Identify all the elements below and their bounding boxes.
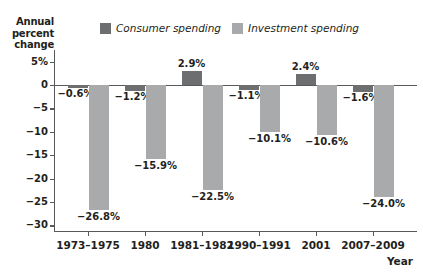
- x-tick-label: 1973–1975: [56, 239, 120, 251]
- legend-swatch-investment-icon: [232, 23, 243, 34]
- legend-item-consumer-spending: Consumer spending: [100, 22, 221, 34]
- y-tick: [50, 202, 55, 203]
- y-tick-label: −25: [2, 196, 48, 207]
- bar-value-label: −10.1%: [248, 133, 291, 144]
- x-tick-label: 1980: [130, 239, 159, 251]
- legend-label-investment: Investment spending: [248, 22, 359, 34]
- x-tick: [88, 231, 89, 236]
- x-axis-title: Year: [387, 255, 413, 267]
- x-tick-label: 2007–2009: [341, 239, 405, 251]
- bar-investment: [374, 85, 394, 197]
- y-tick-label: −10: [2, 125, 48, 136]
- x-tick-label: 1981–1982: [170, 239, 234, 251]
- bar-investment: [203, 85, 223, 190]
- bar-consumer: [182, 71, 202, 85]
- bar-chart: Annual percent change Consumer spending …: [0, 0, 423, 275]
- y-tick: [50, 85, 55, 86]
- bar-value-label: 2.4%: [292, 61, 320, 72]
- x-tick-label: 1990–1991: [227, 239, 291, 251]
- x-tick: [373, 231, 374, 236]
- bar-consumer: [353, 85, 373, 92]
- bar-investment: [260, 85, 280, 132]
- y-axis-line: [54, 50, 55, 232]
- y-tick-label: 0: [2, 79, 48, 90]
- y-axis-title-line-3: change: [2, 39, 54, 51]
- y-axis-title-line-2: percent: [2, 28, 54, 40]
- x-tick-label: 2001: [301, 239, 330, 251]
- bar-investment: [146, 85, 166, 159]
- legend-swatch-consumer-icon: [100, 23, 111, 34]
- x-tick: [202, 231, 203, 236]
- x-axis-line: [54, 231, 417, 232]
- y-tick: [50, 225, 55, 226]
- y-tick: [50, 108, 55, 109]
- y-axis-title: Annual percent change: [2, 16, 54, 51]
- y-tick: [50, 155, 55, 156]
- y-tick-label: −20: [2, 172, 48, 183]
- bar-value-label: −22.5%: [191, 191, 234, 202]
- x-tick: [145, 231, 146, 236]
- bar-value-label: −10.6%: [305, 136, 348, 147]
- bar-value-label: −26.8%: [77, 211, 120, 222]
- y-tick: [50, 132, 55, 133]
- bar-value-label: 2.9%: [178, 58, 206, 69]
- y-tick: [50, 62, 55, 63]
- x-tick: [316, 231, 317, 236]
- plot-area: 5%0−5−10−15−20−25−30 1973–197519801981–1…: [54, 50, 417, 232]
- bar-consumer: [296, 74, 316, 85]
- y-axis-title-line-1: Annual: [2, 16, 54, 28]
- x-tick: [259, 231, 260, 236]
- legend-item-investment-spending: Investment spending: [232, 22, 359, 34]
- bar-investment: [317, 85, 337, 135]
- legend-label-consumer: Consumer spending: [116, 22, 221, 34]
- y-tick-label: −5: [2, 102, 48, 113]
- y-tick-label: 5%: [2, 55, 48, 66]
- y-tick-label: −30: [2, 219, 48, 230]
- bar-investment: [89, 85, 109, 210]
- y-tick-label: −15: [2, 149, 48, 160]
- chart-legend: Consumer spending Investment spending: [100, 22, 359, 34]
- bar-value-label: −15.9%: [134, 160, 177, 171]
- bar-value-label: −24.0%: [362, 198, 405, 209]
- y-tick: [50, 179, 55, 180]
